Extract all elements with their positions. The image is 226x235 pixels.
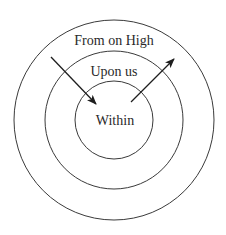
middle-ring-label: Upon us <box>90 64 137 79</box>
concentric-diagram: From on High Upon us Within <box>0 0 226 235</box>
outer-ring-label: From on High <box>74 33 153 48</box>
inner-ring-label: Within <box>96 113 134 128</box>
